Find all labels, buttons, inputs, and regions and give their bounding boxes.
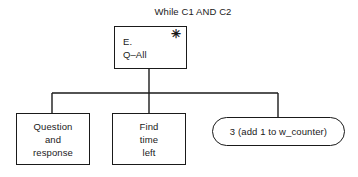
node-root-line-2: Q–All	[123, 48, 147, 61]
node-find-time-left[interactable]: Find time left	[112, 113, 186, 165]
node-find-line-1: Find	[140, 120, 159, 133]
node-find-line-2: time	[140, 133, 158, 146]
asterisk-marker-icon: ✳	[171, 28, 181, 40]
node-add-one-to-w-counter[interactable]: 3 (add 1 to w_counter)	[212, 117, 345, 146]
node-question-line-1: Question	[34, 120, 73, 133]
node-question-line-2: and	[45, 133, 61, 146]
node-root-q-all[interactable]: E. Q–All ✳	[114, 26, 187, 69]
node-question-line-3: response	[33, 146, 73, 159]
node-find-line-3: left	[142, 146, 155, 159]
node-root-line-1: E.	[123, 35, 132, 48]
flow-diagram: While C1 AND C2 E. Q–All ✳ Question and …	[0, 0, 358, 177]
node-question-and-response[interactable]: Question and response	[16, 113, 90, 165]
node-counter-line-1: 3 (add 1 to w_counter)	[230, 125, 327, 138]
